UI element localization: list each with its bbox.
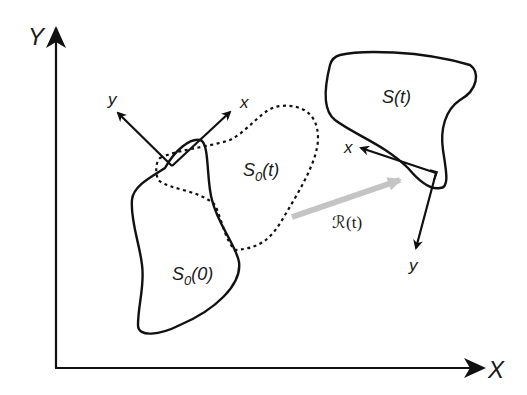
body-final: S(t) <box>326 52 476 188</box>
body-final-frame-x-label: x <box>343 138 353 157</box>
body-final-frame: x y <box>343 138 437 275</box>
body-initial-frame: y x <box>107 90 249 166</box>
body-initial-frame-y-axis <box>118 113 172 166</box>
body-translated-outline <box>156 106 318 250</box>
body-initial-frame-x-label: x <box>239 93 249 112</box>
body-final-frame-y-label: y <box>408 256 419 275</box>
body-initial-frame-y-label: y <box>107 90 118 109</box>
body-final-label: S(t) <box>382 87 411 107</box>
body-initial: S0(0) <box>132 140 239 334</box>
body-final-outline <box>326 52 476 188</box>
rotation-label: ℛ(t) <box>332 213 362 232</box>
body-initial-frame-x-axis <box>172 112 230 166</box>
rotation-arrow-shaft <box>292 180 400 217</box>
rigid-body-motion-diagram: Y X S0(0) y x S0(t) ℛ(t) S(t) x y <box>0 0 527 395</box>
body-translated-label: S0(t) <box>243 160 279 184</box>
world-axes: Y X <box>28 23 505 383</box>
body-translated: S0(t) <box>156 106 318 250</box>
world-x-axis-label: X <box>487 356 505 383</box>
body-initial-label: S0(0) <box>172 264 213 288</box>
body-initial-outline <box>132 140 239 334</box>
body-final-frame-x-axis <box>361 148 436 173</box>
rotation-arrow: ℛ(t) <box>292 180 400 232</box>
world-y-axis-label: Y <box>28 23 46 50</box>
